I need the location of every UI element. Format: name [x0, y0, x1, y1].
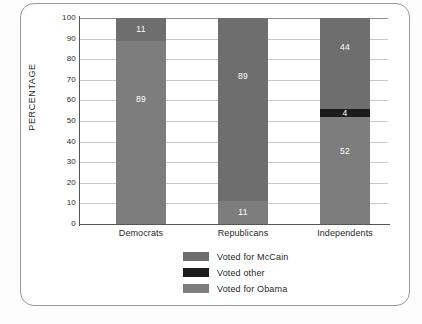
- y-axis-tick-labels: 1009080706050403020100: [44, 18, 76, 224]
- y-tick-label-70: 70: [46, 75, 76, 84]
- bar-segment-value: 11: [238, 208, 247, 217]
- page-background: PERCENTAGE 1009080706050403020100 118989…: [0, 0, 422, 324]
- bar-segment-voted-for-obama[interactable]: 89: [116, 41, 166, 224]
- legend-label: Voted for Obama: [217, 284, 287, 294]
- bar-segment-value: 4: [342, 109, 347, 118]
- plot-area: 1189891144452: [80, 18, 388, 224]
- bar-segment-voted-for-obama[interactable]: 11: [218, 201, 268, 224]
- y-tick-label-0: 0: [46, 219, 76, 228]
- legend-swatch: [183, 268, 209, 277]
- legend-item-voted-for-mccain[interactable]: Voted for McCain: [183, 249, 353, 264]
- bar-segment-voted-for-mccain[interactable]: 89: [218, 18, 268, 201]
- legend-item-voted-other[interactable]: Voted other: [183, 265, 353, 280]
- y-tick-label-10: 10: [46, 198, 76, 207]
- bar-segment-value: 44: [340, 43, 350, 52]
- y-tick-label-90: 90: [46, 34, 76, 43]
- bar-segment-voted-for-mccain[interactable]: 11: [116, 18, 166, 41]
- y-tick-label-80: 80: [46, 54, 76, 63]
- bar-segment-value: 52: [340, 147, 350, 156]
- legend-swatch: [183, 284, 209, 293]
- y-tick-label-20: 20: [46, 178, 76, 187]
- bar-republicans[interactable]: 8911: [218, 18, 268, 224]
- category-label-independents: Independents: [285, 228, 405, 238]
- chart-legend: Voted for McCainVoted otherVoted for Oba…: [183, 249, 353, 297]
- legend-label: Voted for McCain: [217, 252, 288, 262]
- bar-segment-voted-for-obama[interactable]: 52: [320, 117, 370, 224]
- legend-item-voted-for-obama[interactable]: Voted for Obama: [183, 281, 353, 296]
- y-axis-label: PERCENTAGE: [27, 37, 37, 157]
- y-tick-label-50: 50: [46, 116, 76, 125]
- bar-segment-value: 11: [136, 25, 145, 34]
- bar-segment-voted-for-mccain[interactable]: 44: [320, 18, 370, 109]
- x-axis-line: [79, 224, 390, 225]
- legend-swatch: [183, 252, 209, 261]
- bar-segment-value: 89: [238, 72, 248, 81]
- y-tick-label-30: 30: [46, 157, 76, 166]
- y-tick-label-40: 40: [46, 137, 76, 146]
- bar-segment-voted-other[interactable]: 4: [320, 109, 370, 117]
- legend-label: Voted other: [217, 268, 265, 278]
- bar-segment-value: 89: [136, 95, 146, 104]
- y-tick-label-100: 100: [46, 13, 76, 22]
- y-tick-label-60: 60: [46, 95, 76, 104]
- stacked-bar-chart: PERCENTAGE 1009080706050403020100 118989…: [0, 0, 422, 324]
- bar-democrats[interactable]: 1189: [116, 18, 166, 224]
- bar-independents[interactable]: 44452: [320, 18, 370, 224]
